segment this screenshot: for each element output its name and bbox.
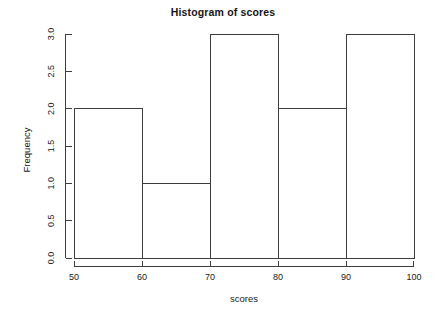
- x-tick-label-80: 80: [273, 272, 283, 282]
- bar-90-100: [346, 34, 414, 258]
- x-tick-label-100: 100: [406, 272, 421, 282]
- y-tick-label-1.5: 1.5: [46, 140, 56, 153]
- bar-60-70: [142, 183, 210, 258]
- y-tick-label-2.5: 2.5: [46, 65, 56, 78]
- y-axis: 3.0 2.5 2.0 1.5 1.0 0.5 0.0 Frequency: [21, 28, 72, 265]
- histogram-figure: Histogram of scores 3.0 2.5 2.0 1.5 1.0 …: [0, 0, 446, 314]
- bar-80-90: [278, 109, 346, 258]
- x-tick-label-70: 70: [205, 272, 215, 282]
- y-tick-label-0.5: 0.5: [46, 214, 56, 227]
- y-tick-label-0.0: 0.0: [46, 252, 56, 265]
- y-axis-label: Frequency: [21, 127, 32, 172]
- bars-group: [74, 34, 414, 258]
- x-tick-label-60: 60: [137, 272, 147, 282]
- y-tick-label-3.0: 3.0: [46, 28, 56, 41]
- x-tick-label-50: 50: [69, 272, 79, 282]
- y-tick-label-1.0: 1.0: [46, 177, 56, 190]
- x-axis-label: scores: [230, 293, 258, 304]
- bar-70-80: [210, 34, 278, 258]
- plot-area: 3.0 2.5 2.0 1.5 1.0 0.5 0.0 Frequency 50…: [0, 0, 446, 314]
- bar-50-60: [74, 109, 142, 258]
- x-tick-label-90: 90: [341, 272, 351, 282]
- x-axis: 50 60 70 80 90 100 scores: [69, 261, 422, 305]
- y-tick-label-2.0: 2.0: [46, 102, 56, 115]
